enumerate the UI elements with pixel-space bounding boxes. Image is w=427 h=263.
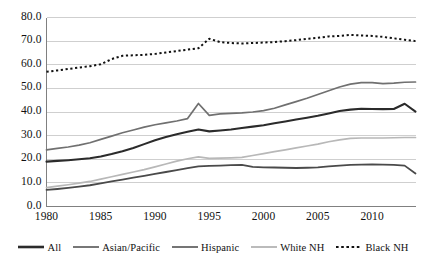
- legend-swatch-line-icon: [73, 243, 99, 251]
- y-tick-label: 40.0: [0, 104, 42, 116]
- chart-canvas: [0, 0, 427, 263]
- series-line-black-nh: [47, 35, 416, 72]
- legend-label: Black NH: [365, 242, 408, 253]
- legend-swatch-line-icon: [336, 243, 362, 251]
- legend-label: White NH: [280, 242, 324, 253]
- x-tick-label: 1980: [17, 210, 77, 222]
- legend-label: Hispanic: [201, 242, 239, 253]
- legend-swatch-line-icon: [18, 243, 44, 251]
- legend-item[interactable]: Hispanic: [172, 242, 239, 253]
- x-tick-label: 1985: [71, 210, 131, 222]
- legend-item[interactable]: Black NH: [336, 242, 408, 253]
- y-tick-label: 70.0: [0, 33, 42, 45]
- y-tick-label: 20.0: [0, 151, 42, 163]
- legend-label: All: [47, 242, 61, 253]
- x-tick-label: 1990: [125, 210, 185, 222]
- series-line-asian-pacific: [47, 82, 416, 150]
- x-tick-label: 1995: [179, 210, 239, 222]
- series-line-white-nh: [47, 138, 416, 188]
- legend-item[interactable]: White NH: [251, 242, 324, 253]
- y-tick-label: 10.0: [0, 175, 42, 187]
- x-tick-label: 2010: [342, 210, 402, 222]
- legend-swatch-line-icon: [172, 243, 198, 251]
- y-tick-label: 50.0: [0, 80, 42, 92]
- y-tick-label: 60.0: [0, 57, 42, 69]
- legend-label: Asian/Pacific: [102, 242, 160, 253]
- legend-item[interactable]: All: [18, 242, 61, 253]
- legend-item[interactable]: Asian/Pacific: [73, 242, 160, 253]
- x-tick-label: 2005: [288, 210, 348, 222]
- legend-swatch-line-icon: [251, 243, 277, 251]
- series-line-hispanic: [47, 164, 416, 190]
- y-tick-label: 80.0: [0, 10, 42, 22]
- line-chart: 0.010.020.030.040.050.060.070.080.0 1980…: [0, 0, 427, 263]
- y-tick-label: 30.0: [0, 128, 42, 140]
- x-tick-label: 2000: [234, 210, 294, 222]
- chart-legend: AllAsian/PacificHispanicWhite NHBlack NH: [0, 236, 427, 258]
